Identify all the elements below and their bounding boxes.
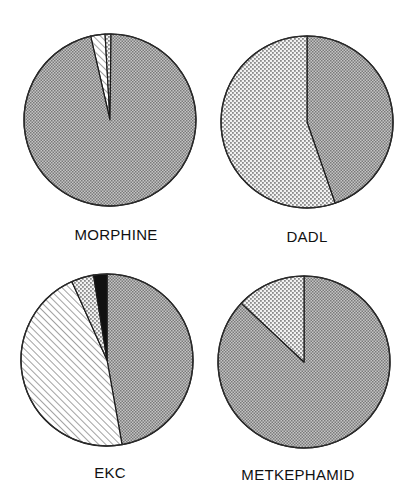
label-ekc: EKC [94, 464, 126, 481]
label-dadl: DADL [286, 228, 327, 245]
pie-chart-figure: MORPHINE DADL EKC METKEPHAMID [0, 0, 413, 497]
pie-metkephamid [218, 276, 390, 448]
label-morphine: MORPHINE [74, 226, 157, 243]
pie-morphine [24, 34, 196, 206]
pie-ekc [21, 274, 193, 446]
pie-dadl [221, 36, 393, 208]
pie-slice-dense-grey [107, 274, 193, 445]
label-metkephamid: METKEPHAMID [241, 466, 354, 483]
